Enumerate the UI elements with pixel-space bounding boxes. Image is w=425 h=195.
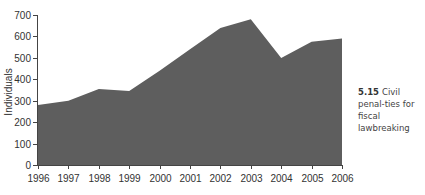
area-series [38,19,342,165]
x-tick-label: 2003 [240,173,263,184]
x-tick-label: 1999 [118,173,141,184]
y-tick-label: 400 [14,74,31,85]
area-fill [38,19,342,165]
x-tick-label: 1998 [88,173,111,184]
x-tick-label: 2005 [301,173,324,184]
x-tick-label: 2002 [209,173,232,184]
x-tick-label: 2000 [149,173,172,184]
figure-number: 5.15 [358,87,379,97]
y-tick-label: 100 [14,139,31,150]
x-tick-label: 2004 [270,173,293,184]
y-tick-label: 700 [14,10,31,21]
y-axis-label: Individuals [3,68,14,115]
x-tick-label: 1997 [57,173,80,184]
x-tick-label: 1996 [27,173,50,184]
y-tick-label: 0 [25,160,31,171]
y-tick-label: 500 [14,53,31,64]
y-tick-label: 300 [14,96,31,107]
y-tick-label: 600 [14,31,31,42]
figure-caption: 5.15Civil penal-ties for fiscal lawbreak… [358,86,424,134]
x-tick-label: 2006 [331,173,354,184]
x-tick-label: 2001 [179,173,202,184]
y-tick-label: 200 [14,117,31,128]
